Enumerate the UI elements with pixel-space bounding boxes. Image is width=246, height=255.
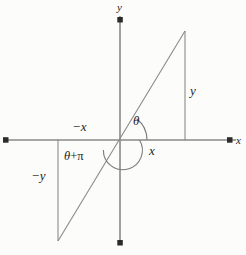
diagonal-line <box>58 31 185 241</box>
diagram-canvas <box>0 0 246 255</box>
y-axis-top-arrow-icon <box>117 17 123 23</box>
x-axis-right-arrow-icon <box>227 137 233 143</box>
y-segment-label: y <box>190 84 196 97</box>
theta-plus-pi-pi: π <box>77 149 83 163</box>
theta-plus-pi-angle-label: θ+π <box>64 150 84 163</box>
theta-plus-pi-arc <box>103 140 142 170</box>
negative-x-segment-label: −x <box>72 120 87 133</box>
y-axis-label: y <box>117 2 122 13</box>
x-axis-left-arrow-icon <box>3 137 9 143</box>
x-segment-label: x <box>149 144 155 157</box>
x-axis-label: x <box>236 135 241 146</box>
theta-angle-label: θ <box>133 114 139 127</box>
y-axis-bottom-arrow-icon <box>117 240 123 246</box>
negative-y-segment-label: −y <box>31 169 46 182</box>
angle-diagram-figure: y x θ θ+π x y −x −y <box>0 0 246 255</box>
